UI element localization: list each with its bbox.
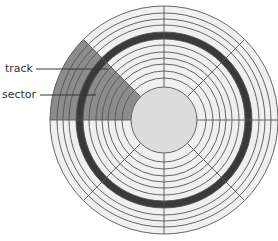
disk-diagram (0, 0, 278, 241)
track-label: track (5, 63, 33, 74)
disk-platter (50, 6, 278, 234)
disk-hub (131, 87, 197, 153)
sector-label: sector (2, 89, 36, 100)
